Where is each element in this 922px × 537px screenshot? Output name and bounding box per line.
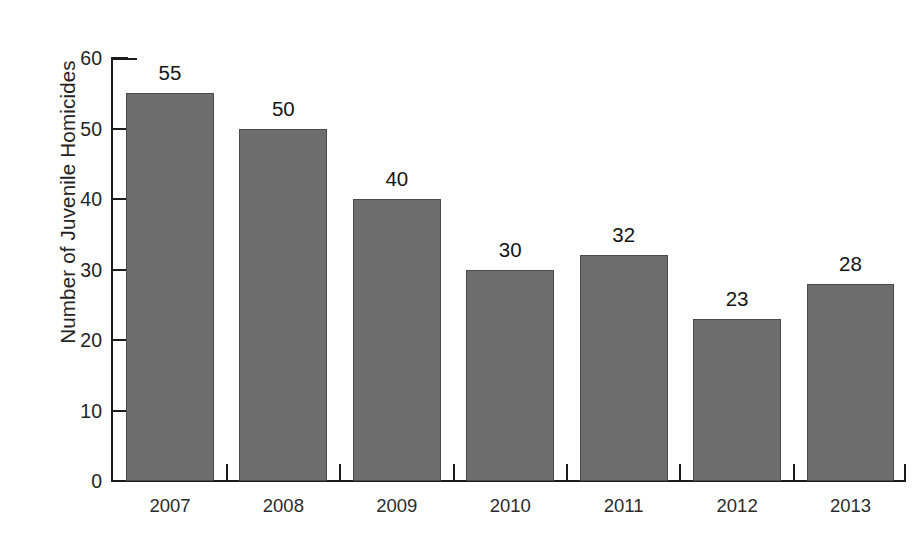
bar-chart: Number of Juvenile Homicides 01020304050… <box>0 0 922 537</box>
plot-area: 55504030322328 <box>112 0 906 481</box>
x-axis-category-label: 2011 <box>580 495 668 517</box>
bar <box>807 284 895 481</box>
y-axis-tick-label: 0 <box>56 470 102 493</box>
x-axis-category-label: 2007 <box>126 495 214 517</box>
bar <box>466 270 554 482</box>
x-axis-category-label: 2009 <box>353 495 441 517</box>
y-axis-tick-label: 40 <box>56 188 102 211</box>
y-axis-tick-label: 60 <box>56 47 102 70</box>
bar-value-label: 32 <box>580 223 668 247</box>
bar <box>353 199 441 481</box>
x-axis-category-label: 2010 <box>466 495 554 517</box>
bar-value-label: 50 <box>239 97 327 121</box>
bar <box>580 255 668 481</box>
bar <box>239 129 327 482</box>
bar-value-label: 28 <box>807 252 895 276</box>
y-axis-tick-label: 20 <box>56 329 102 352</box>
bar-value-label: 55 <box>126 61 214 85</box>
bar-value-label: 40 <box>353 167 441 191</box>
bar <box>693 319 781 481</box>
bar-value-label: 23 <box>693 287 781 311</box>
y-axis-tick-label: 50 <box>56 117 102 140</box>
bar-value-label: 30 <box>466 238 554 262</box>
y-axis-tick-label: 30 <box>56 258 102 281</box>
y-axis-tick-label: 10 <box>56 399 102 422</box>
x-axis-category-label: 2012 <box>693 495 781 517</box>
x-axis-category-label: 2008 <box>239 495 327 517</box>
bar <box>126 93 214 481</box>
x-axis-category-label: 2013 <box>807 495 895 517</box>
